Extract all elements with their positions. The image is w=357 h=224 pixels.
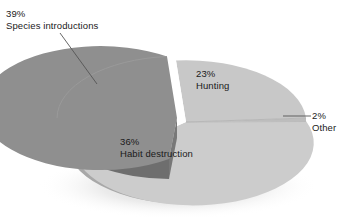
- label-habit-destruction: 36% Habit destruction: [120, 136, 193, 159]
- label-species-introductions-name: Species introductions: [6, 20, 98, 32]
- label-hunting-name: Hunting: [196, 80, 229, 92]
- slice-species-introductions-group: [0, 46, 177, 179]
- label-species-introductions-value: 39%: [6, 8, 98, 20]
- slice-divider-other-habit: [186, 122, 306, 123]
- label-other-name: Other: [312, 122, 336, 134]
- label-other: 2% Other: [312, 110, 336, 133]
- label-hunting: 23% Hunting: [196, 68, 229, 91]
- label-habit-destruction-name: Habit destruction: [120, 148, 193, 160]
- label-other-value: 2%: [312, 110, 336, 122]
- pie-chart: 39% Species introductions 23% Hunting 36…: [0, 0, 357, 224]
- label-habit-destruction-value: 36%: [120, 136, 193, 148]
- pie-chart-graphic: [0, 0, 357, 224]
- label-hunting-value: 23%: [196, 68, 229, 80]
- label-species-introductions: 39% Species introductions: [6, 8, 98, 31]
